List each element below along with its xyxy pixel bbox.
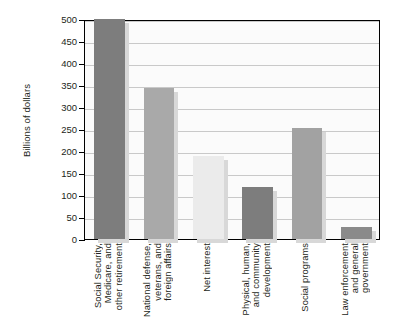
x-axis-label-line: Social Security, (94, 243, 103, 308)
x-axis-label-line: Social programs (301, 243, 310, 312)
x-axis-category-label: Physical, human,and communitydevelopment (232, 243, 281, 333)
x-axis-label-line: government (361, 243, 370, 293)
bar[interactable] (193, 156, 224, 239)
bar[interactable] (94, 19, 125, 239)
bar-chart-figure: Billions of dollars 05010015020025030035… (0, 0, 418, 334)
y-axis-tick-label: 350 (61, 80, 77, 91)
y-axis-tick-label: 0 (72, 234, 77, 245)
y-axis-tick-label: 450 (61, 36, 77, 47)
x-axis-category-label: Social Security,Medicare, andother retir… (84, 243, 133, 333)
y-axis-tick-label: 150 (61, 168, 77, 179)
bar-fill (193, 156, 224, 239)
bar[interactable] (341, 227, 372, 239)
bar-fill (292, 128, 323, 239)
y-axis-tick-label: 100 (61, 190, 77, 201)
bar-fill (242, 187, 273, 239)
x-axis-label-line: and general (351, 243, 360, 293)
x-axis-label-line: National defense, (143, 243, 152, 317)
x-axis-label-line: Law enforcement (340, 243, 349, 316)
x-axis-category-label: National defense,veterans, andforeign af… (133, 243, 182, 333)
x-axis-label-line: other retirement (114, 243, 123, 310)
x-axis-label-line: veterans, and (153, 243, 162, 301)
y-axis-title: Billions of dollars (21, 51, 32, 191)
y-axis-tick-label: 250 (61, 124, 77, 135)
x-axis-category-label: Net interest (183, 243, 232, 333)
x-axis-label-line: foreign affairs (164, 243, 173, 301)
x-axis-label-line: development (262, 243, 271, 297)
y-axis-tick-label: 500 (61, 14, 77, 25)
x-axis-category-labels: Social Security,Medicare, andother retir… (84, 243, 380, 334)
bar-series-layer (85, 21, 379, 239)
plot-area (84, 20, 380, 240)
x-axis-label-line: and community (252, 243, 261, 307)
y-axis-tick-label: 200 (61, 146, 77, 157)
bar[interactable] (292, 128, 323, 239)
y-axis-tick-label: 400 (61, 58, 77, 69)
y-axis-tick-label: 50 (66, 212, 77, 223)
y-axis-tick (79, 240, 85, 241)
x-axis-label-line: Medicare, and (104, 243, 113, 303)
x-axis-category-label: Law enforcementand generalgovernment (331, 243, 380, 333)
bar-fill (144, 88, 175, 239)
y-axis-tick-label: 300 (61, 102, 77, 113)
bar[interactable] (242, 187, 273, 239)
bar[interactable] (144, 88, 175, 239)
bar-fill (94, 19, 125, 239)
x-axis-label-line: Net interest (203, 243, 212, 292)
x-axis-label-line: Physical, human, (242, 243, 251, 315)
x-axis-category-label: Social programs (281, 243, 330, 333)
bar-fill (341, 227, 372, 239)
